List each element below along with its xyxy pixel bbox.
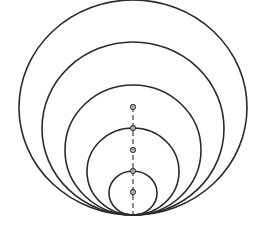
center-mark-dot-3 — [132, 149, 134, 151]
diagram-canvas — [0, 0, 254, 236]
nested-circles-diagram — [0, 0, 254, 236]
center-mark-dot-1 — [132, 106, 134, 108]
center-mark-dot-4 — [132, 170, 134, 172]
center-mark-dot-2 — [132, 127, 134, 129]
center-mark-dot-5 — [132, 191, 134, 193]
